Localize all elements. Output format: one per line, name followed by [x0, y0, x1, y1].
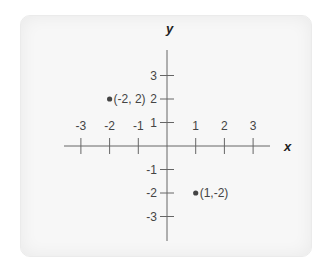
y-axis-label: y	[165, 21, 174, 36]
axes	[64, 50, 270, 241]
y-tick-label: -2	[146, 186, 157, 200]
y-tick-label: -3	[146, 210, 157, 224]
x-tick-label: 3	[250, 119, 257, 133]
x-tick-label: -3	[76, 119, 87, 133]
y-tick-label: -1	[146, 163, 157, 177]
x-tick-label: -2	[104, 119, 115, 133]
point-label: (1,-2)	[200, 186, 229, 200]
x-tick-label: -1	[133, 119, 144, 133]
y-tick-label: 2	[150, 92, 157, 106]
data-point	[107, 96, 112, 101]
y-tick-label: 1	[150, 116, 157, 130]
point-label: (-2, 2)	[114, 92, 146, 106]
x-tick-label: 1	[192, 119, 199, 133]
y-tick-label: 3	[150, 69, 157, 83]
x-ticks: -3-2-1123	[76, 119, 257, 154]
coordinate-plane: -3-2-1123 321-1-2-3 (-2, 2)(1,-2) y x	[0, 0, 331, 269]
x-axis-label: x	[283, 139, 292, 154]
x-tick-label: 2	[221, 119, 228, 133]
data-point	[193, 190, 198, 195]
